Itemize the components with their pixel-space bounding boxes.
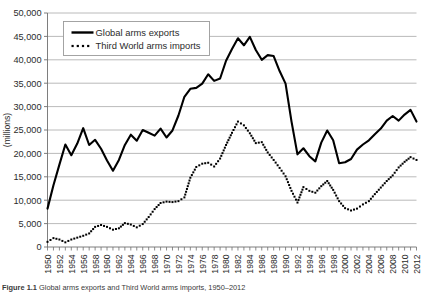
y-axis-label: (millions) [2,113,12,148]
legend-label: Global arms exports [96,27,180,38]
x-tick-label: 1978 [210,254,220,273]
x-tick-label: 1968 [150,254,160,273]
x-tick-label: 1958 [91,254,101,273]
x-tick-label: 1964 [126,254,136,273]
x-tick-label: 2012 [412,254,422,273]
x-tick-label: 1990 [281,254,291,273]
x-tick-label: 1980 [221,254,231,273]
x-tick-label: 1992 [293,254,303,273]
x-axis-tick-labels: 1950195219541956195819601962196419661968… [43,254,422,273]
x-tick-label: 1996 [317,254,327,273]
line-chart: 05,00010,00015,00020,00025,00030,00035,0… [0,0,426,292]
caption-text: Global arms exports and Third World arms… [39,283,245,292]
x-tick-label: 2008 [388,254,398,273]
y-tick-label: 5,000 [19,219,42,229]
x-tick-label: 1950 [43,254,53,273]
x-tick-label: 1998 [329,254,339,273]
y-tick-label: 10,000 [13,196,41,206]
x-tick-label: 1984 [245,254,255,273]
y-tick-label: 50,000 [13,8,41,18]
y-tick-label: 20,000 [13,149,41,159]
y-tick-label: 45,000 [13,32,41,42]
y-tick-label: 0 [36,242,41,252]
figure-caption: Figure 1.1 Global arms exports and Third… [2,283,426,292]
y-tick-label: 30,000 [13,102,41,112]
x-tick-label: 1974 [186,254,196,273]
x-tick-label: 1966 [138,254,148,273]
chart-legend: Global arms exportsThird World arms impo… [64,22,210,56]
x-tick-label: 1960 [102,254,112,273]
x-tick-label: 2000 [340,254,350,273]
x-tick-label: 2010 [400,254,410,273]
y-tick-label: 35,000 [13,79,41,89]
x-tick-label: 1952 [55,254,65,273]
figure-container: 05,00010,00015,00020,00025,00030,00035,0… [0,0,426,292]
legend-label: Third World arms imports [96,40,201,51]
x-tick-label: 1986 [257,254,267,273]
x-tick-label: 1972 [174,254,184,273]
y-axis-title: (millions) [2,113,12,148]
caption-label: Figure 1.1 [2,283,37,292]
x-tick-label: 1994 [305,254,315,273]
x-tick-label: 1954 [67,254,77,273]
x-tick-label: 1976 [198,254,208,273]
x-tick-label: 1970 [162,254,172,273]
x-tick-label: 1988 [269,254,279,273]
x-tick-label: 2006 [376,254,386,273]
x-tick-label: 1956 [79,254,89,273]
y-tick-label: 25,000 [13,125,41,135]
y-tick-label: 15,000 [13,172,41,182]
y-tick-label: 40,000 [13,55,41,65]
x-tick-label: 2004 [364,254,374,273]
x-tick-label: 2002 [352,254,362,273]
x-tick-label: 1982 [233,254,243,273]
x-tick-label: 1962 [114,254,124,273]
